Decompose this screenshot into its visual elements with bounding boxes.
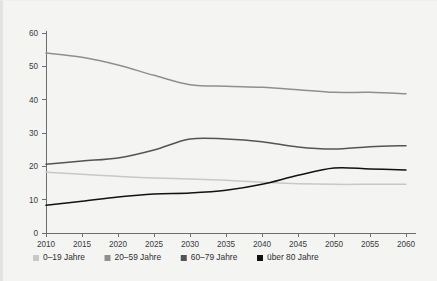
y-axis-ticks: 0102030405060 — [29, 29, 46, 238]
x-tick-label: 2050 — [325, 240, 344, 249]
x-tick-label: 2025 — [145, 240, 164, 249]
y-tick-label: 60 — [29, 29, 39, 38]
y-tick-label: 20 — [29, 162, 39, 171]
legend-swatch-3 — [257, 255, 263, 261]
x-tick-label: 2030 — [181, 240, 200, 249]
legend-label-3: über 80 Jahre — [267, 252, 319, 262]
x-tick-label: 2010 — [37, 240, 56, 249]
x-tick-label: 2055 — [361, 240, 380, 249]
x-tick-label: 2060 — [397, 240, 416, 249]
legend-label-1: 20–59 Jahre — [115, 252, 162, 262]
y-tick-label: 30 — [29, 129, 39, 138]
chart-legend: 0–19 Jahre20–59 Jahre60–79 Jahreüber 80 … — [33, 252, 319, 262]
series-line-2 — [46, 138, 406, 164]
series-line-0 — [46, 172, 406, 184]
x-tick-label: 2035 — [217, 240, 236, 249]
legend-label-2: 60–79 Jahre — [191, 252, 238, 262]
line-chart: 0102030405060 20102015202020252030203520… — [3, 1, 437, 281]
legend-swatch-2 — [181, 255, 187, 261]
legend-label-0: 0–19 Jahre — [43, 252, 85, 262]
chart-figure: 0102030405060 20102015202020252030203520… — [0, 0, 437, 281]
series-lines — [46, 53, 406, 205]
legend-swatch-0 — [33, 255, 39, 261]
y-tick-label: 0 — [33, 229, 38, 238]
legend-swatch-1 — [105, 255, 111, 261]
y-tick-label: 50 — [29, 62, 39, 71]
x-tick-label: 2040 — [253, 240, 272, 249]
x-tick-label: 2020 — [109, 240, 128, 249]
x-axis-ticks: 2010201520202025203020352040204520502055… — [37, 233, 416, 249]
y-tick-label: 40 — [29, 96, 39, 105]
series-line-1 — [46, 53, 406, 94]
y-tick-label: 10 — [29, 196, 39, 205]
x-tick-label: 2045 — [289, 240, 308, 249]
x-tick-label: 2015 — [73, 240, 92, 249]
series-line-3 — [46, 168, 406, 206]
